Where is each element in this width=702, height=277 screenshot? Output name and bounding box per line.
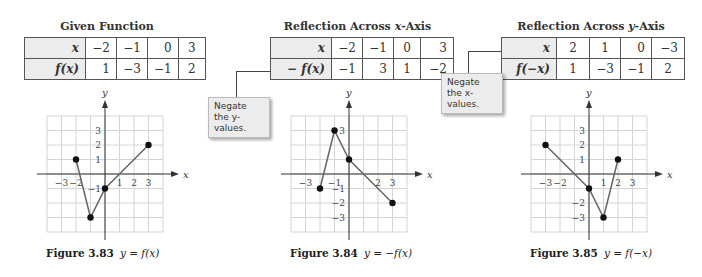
y-tick-label: −3 [572,213,586,223]
x-tick-label: −3 [539,178,553,188]
figure-equation: y = f(−x) [604,247,652,259]
y-tick-label: 2 [579,140,585,150]
figure-caption: Figure 3.85y = f(−x) [530,247,652,259]
y-axis-arrow-icon [586,100,592,108]
x-tick-label: 3 [630,178,636,188]
y-tick-label: 3 [579,126,585,136]
data-point [542,142,548,148]
y-axis-label: y [585,87,592,98]
figure-label: Figure 3.85 [530,247,598,259]
x-tick-label: 1 [601,178,607,188]
data-point [600,214,606,220]
y-tick-label: −2 [572,198,585,208]
x-tick-label: 2 [615,178,621,188]
y-tick-label: 1 [579,155,585,165]
x-tick-label: −2 [553,178,566,188]
x-axis-label: x [667,169,673,180]
graph-y-equals-f-of-neg-x: xy−3−2123321−2−3 [0,0,702,277]
x-axis-arrow-icon [655,171,663,177]
data-point [615,156,621,162]
data-point [586,185,592,191]
